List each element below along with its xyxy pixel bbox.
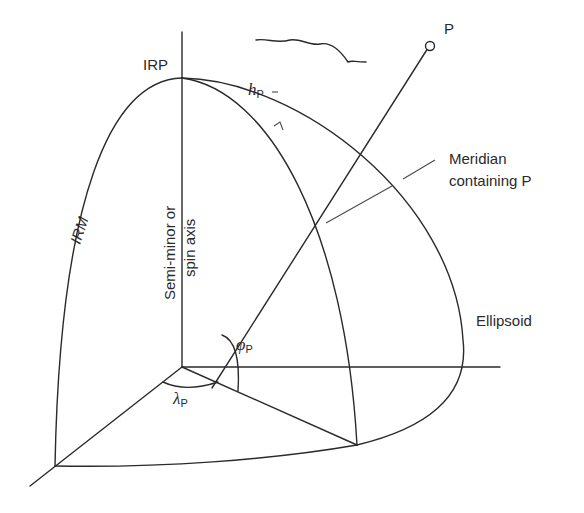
meridian-p-arc — [182, 78, 357, 445]
origin-to-irm-foot — [30, 367, 182, 486]
equator-arc — [55, 445, 357, 466]
terrain-surface — [256, 40, 366, 62]
axis-label-line1: Semi-minor or — [161, 206, 178, 300]
right-angle-marker — [274, 122, 283, 130]
longitude-symbol: λ — [172, 389, 180, 408]
meridian-label-line2: containing P — [449, 172, 532, 189]
latitude-subscript: P — [245, 343, 252, 355]
meridian-leader-line-outer — [403, 160, 435, 179]
height-symbol: h — [248, 80, 257, 99]
ellipsoid-outline-arc — [182, 78, 464, 445]
ellipsoid-geodetic-coordinates-diagram: P IRP IRM hP Semi-minor or spin axis Mer… — [0, 0, 584, 513]
longitude-angle-arc — [163, 382, 218, 387]
ellipsoid-label: Ellipsoid — [476, 312, 532, 329]
latitude-label: φP — [236, 335, 253, 355]
longitude-subscript: P — [180, 397, 187, 409]
latitude-symbol: φ — [236, 335, 245, 354]
height-subscript: P — [257, 88, 264, 100]
axis-label-line2: spin axis — [181, 219, 198, 277]
meridian-leader-line — [326, 186, 392, 223]
irp-label: IRP — [143, 56, 168, 73]
origin-to-p-meridian-foot — [182, 367, 357, 445]
meridian-label-line1: Meridian — [449, 150, 507, 167]
irm-label: IRM — [67, 214, 92, 246]
longitude-label: λP — [172, 389, 188, 409]
point-p-label: P — [444, 20, 454, 37]
height-label: hP — [248, 80, 264, 100]
point-p-marker — [426, 42, 435, 51]
